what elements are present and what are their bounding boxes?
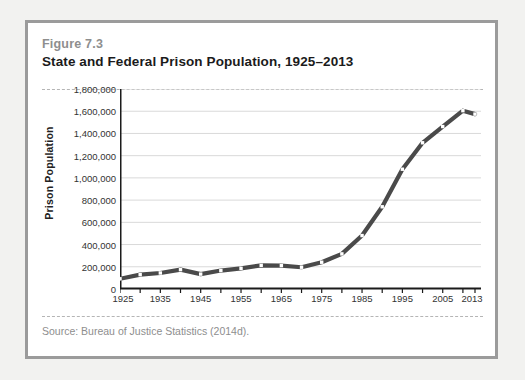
y-axis-tick: 1,200,000: [74, 150, 116, 161]
data-point-marker: [239, 267, 242, 270]
chart-plot-area: Prison Population 1,800,0001,600,0001,40…: [28, 89, 495, 316]
data-point-marker: [138, 273, 141, 276]
x-axis-tick: 1985: [351, 293, 372, 304]
divider-bottom: [42, 316, 483, 317]
page-title: State and Federal Prison Population, 192…: [42, 54, 353, 69]
x-axis-tick: 1935: [150, 293, 171, 304]
data-point-marker: [340, 252, 343, 255]
y-axis-tick: 600,000: [82, 217, 116, 228]
x-axis-tick: 2013: [461, 293, 482, 304]
data-point-marker: [120, 277, 122, 280]
x-axis-tick: 2005: [432, 293, 453, 304]
y-axis-tick: 1,400,000: [74, 128, 116, 139]
data-line: [120, 111, 475, 279]
x-axis-tick: 1965: [271, 293, 292, 304]
data-point-marker: [473, 112, 476, 115]
y-axis-tick: 1,600,000: [74, 106, 116, 117]
data-point-marker: [401, 168, 404, 171]
y-axis-tick: 1,000,000: [74, 172, 116, 183]
y-axis-tick: 400,000: [82, 239, 116, 250]
data-point-marker: [219, 269, 222, 272]
data-point-marker: [421, 141, 424, 144]
x-axis-tick: 1945: [190, 293, 211, 304]
data-point-marker: [280, 264, 283, 267]
x-axis-tick: 1995: [392, 293, 413, 304]
data-point-marker: [300, 266, 303, 269]
data-point-marker: [199, 272, 202, 275]
data-point-marker: [441, 125, 444, 128]
y-axis-tick: 200,000: [82, 261, 116, 272]
x-axis-tick-labels: 1925193519451955196519751985199520052013: [120, 293, 475, 309]
x-axis-tick: 1955: [230, 293, 251, 304]
y-axis-tick-labels: 1,800,0001,600,0001,400,0001,200,0001,00…: [56, 89, 116, 289]
data-point-marker: [461, 109, 464, 112]
data-point-marker: [259, 264, 262, 267]
chart-canvas: [120, 89, 475, 289]
y-axis-tick: 800,000: [82, 195, 116, 206]
data-point-marker: [179, 268, 182, 271]
figure-number: Figure 7.3: [42, 37, 353, 51]
data-point-marker: [159, 271, 162, 274]
source-note: Source: Bureau of Justice Statistics (20…: [42, 325, 249, 337]
x-axis-tick: 1925: [112, 293, 133, 304]
data-point-marker: [320, 261, 323, 264]
x-axis-tick: 1975: [311, 293, 332, 304]
y-axis-tick: 1,800,000: [74, 84, 116, 95]
figure-card: Figure 7.3 State and Federal Prison Popu…: [25, 20, 498, 359]
data-point-marker: [360, 234, 363, 237]
figure-heading: Figure 7.3 State and Federal Prison Popu…: [42, 37, 353, 69]
data-point-marker: [381, 205, 384, 208]
y-axis-label: Prison Population: [43, 108, 55, 238]
